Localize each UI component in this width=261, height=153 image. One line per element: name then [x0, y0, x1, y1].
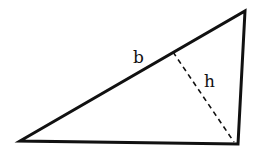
triangle-diagram: b h — [0, 0, 261, 153]
altitude-line — [173, 52, 234, 142]
altitude-label-h: h — [204, 71, 215, 91]
side-label-b: b — [133, 47, 144, 67]
